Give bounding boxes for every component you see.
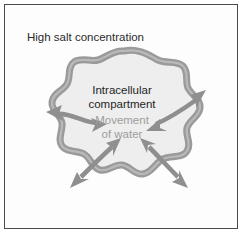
compartment-label-line1: Intracellular (92, 84, 151, 96)
external-environment-label: High salt concentration (27, 31, 144, 45)
water-label-line1: Movement (95, 114, 149, 126)
compartment-label-line2: compartment (0, 98, 244, 112)
water-label-line2: of water (0, 128, 244, 142)
intracellular-compartment-label: Intracellularcompartment (0, 84, 244, 111)
movement-of-water-label: Movementof water (0, 114, 244, 141)
figure-root: High salt concentration Intracellularcom… (0, 0, 244, 235)
